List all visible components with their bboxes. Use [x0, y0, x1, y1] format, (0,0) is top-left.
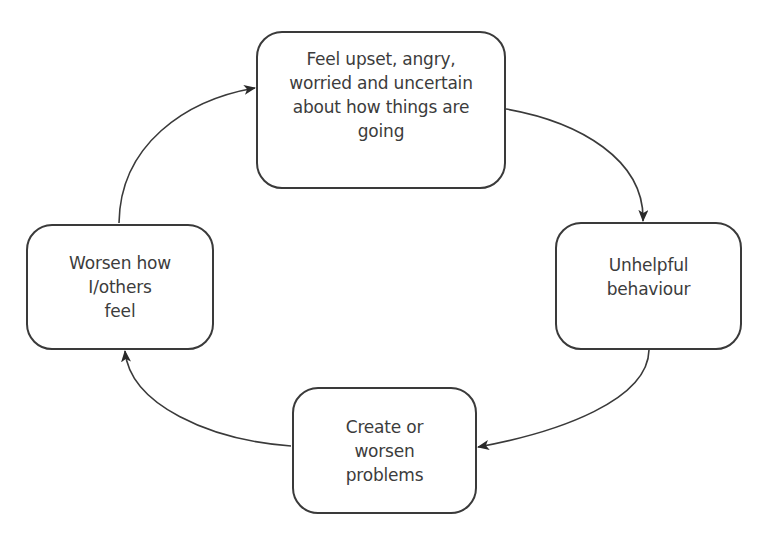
node-worsen-how-others-feel: Worsen how I/others feel — [26, 224, 214, 350]
arrow-left-to-top — [119, 88, 255, 223]
node-feel-upset: Feel upset, angry, worried and uncertain… — [256, 31, 506, 189]
node-label: Worsen how I/others feel — [69, 251, 171, 323]
arrow-bottom-to-left — [125, 351, 291, 446]
arrow-top-to-right — [506, 109, 643, 221]
arrow-right-to-bottom — [478, 350, 649, 447]
node-unhelpful-behaviour: Unhelpful behaviour — [555, 222, 742, 350]
node-label: Feel upset, angry, worried and uncertain… — [289, 47, 472, 143]
cycle-diagram: Feel upset, angry, worried and uncertain… — [0, 0, 764, 539]
node-label: Create or worsen problems — [346, 415, 424, 487]
node-label: Unhelpful behaviour — [607, 253, 691, 301]
node-create-or-worsen-problems: Create or worsen problems — [292, 387, 477, 514]
